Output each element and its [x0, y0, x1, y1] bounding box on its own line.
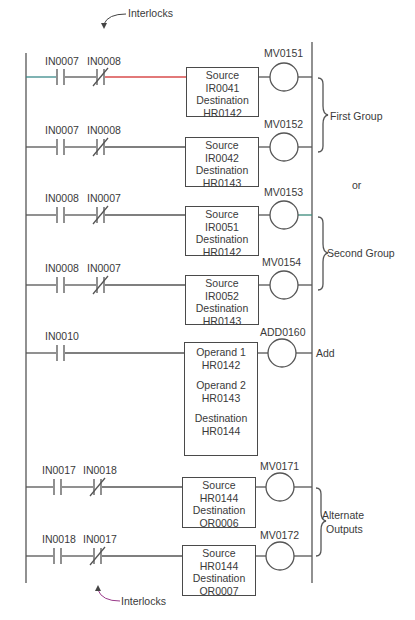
coil-label: MV0154	[262, 257, 301, 268]
coil-label: MV0151	[264, 48, 303, 59]
add-block: Operand 1HR0142 Operand 2HR0143 Destinat…	[184, 342, 258, 456]
contact-no-label: IN0008	[45, 263, 79, 274]
second-group-label: Second Group	[327, 248, 395, 259]
coil-label: MV0172	[260, 530, 299, 541]
or-label: or	[352, 180, 361, 191]
move-block: SourceHR0144DestinationOR0007	[182, 545, 256, 596]
alternate-outputs-label-2: Outputs	[326, 524, 363, 535]
move-block: SourceIR0052DestinationHR0143	[185, 275, 259, 325]
contact-nc-label: IN0018	[83, 465, 117, 476]
ladder-diagram: Interlocks Interlocks First Group or Sec…	[0, 0, 415, 620]
interlocks-arrow-bottom	[98, 590, 120, 601]
coil-label: MV0152	[264, 119, 303, 130]
first-group-label: First Group	[327, 61, 380, 72]
contact-nc-label: IN0007	[87, 263, 121, 274]
interlocks-arrow-top	[104, 14, 126, 24]
contact-no-label: IN0008	[45, 193, 79, 204]
contact-no-icon	[54, 69, 64, 564]
coil-label: MV0153	[264, 187, 303, 198]
contact-no-label: IN0017	[42, 465, 76, 476]
contact-nc-label: IN0017	[83, 534, 117, 545]
contact-nc-label: IN0008	[87, 125, 121, 136]
add-label: Add	[316, 348, 335, 359]
contact-nc-icon	[90, 68, 108, 565]
alternate-outputs-label-1: Alternate	[322, 510, 364, 521]
contact-nc-label: IN0008	[87, 56, 121, 67]
coil-label: MV0171	[260, 461, 299, 472]
coil-label: ADD0160	[260, 327, 306, 338]
move-block: SourceHR0144DestinationOR0006	[182, 477, 256, 528]
coil-icon	[266, 63, 298, 570]
contact-no-label: IN0010	[45, 331, 79, 342]
contact-no-label: IN0018	[42, 534, 76, 545]
interlocks-label-bottom: Interlocks	[121, 596, 166, 607]
contact-no-label: IN0007	[45, 125, 79, 136]
contact-no-label: IN0007	[45, 56, 79, 67]
interlocks-label-top: Interlocks	[128, 8, 173, 19]
alternate-outputs-brace	[316, 488, 326, 556]
contact-nc-label: IN0007	[87, 193, 121, 204]
move-block: SourceIR0042DestinationHR0143	[185, 137, 259, 187]
move-block: SourceIR0051DestinationHR0142	[185, 206, 259, 256]
move-block: SourceIR0041DestinationHR0142	[186, 67, 259, 117]
first-group-brace	[318, 78, 328, 152]
